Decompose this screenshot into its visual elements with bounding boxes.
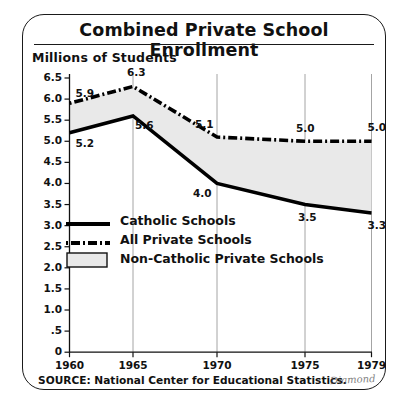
x-tick-label: 1979	[349, 359, 395, 371]
y-tick-label: 6.5	[36, 71, 62, 83]
data-label-catholic: 5.2	[76, 137, 95, 149]
non-catholic-area	[70, 86, 372, 213]
data-label-all-private: 5.9	[76, 87, 95, 99]
data-label-catholic: 4.0	[193, 187, 212, 199]
chart-figure: Combined Private School Enrollment Milli…	[0, 0, 404, 412]
y-tick-label: .5	[36, 324, 62, 336]
y-tick-label: 2.0	[36, 261, 62, 273]
dash-dot-line-swatch	[66, 235, 110, 247]
y-tick-label: 0	[36, 345, 62, 357]
data-label-catholic: 3.5	[298, 211, 317, 223]
data-label-all-private: 5.0	[296, 122, 315, 134]
x-tick-label: 1960	[47, 359, 93, 371]
y-tick-label: 3.5	[36, 198, 62, 210]
legend-label-catholic: Catholic Schools	[120, 213, 236, 228]
data-label-all-private: 6.3	[127, 66, 146, 78]
y-tick-label: 1.5	[36, 282, 62, 294]
y-tick-label: 6.0	[36, 92, 62, 104]
y-tick-label: 1.0	[36, 303, 62, 315]
legend-label-non-catholic: Non-Catholic Private Schools	[120, 251, 324, 266]
x-tick-label: 1965	[110, 359, 156, 371]
gray-box-swatch	[66, 254, 110, 266]
y-tick-label: 5.5	[36, 113, 62, 125]
y-tick-label: 4.5	[36, 155, 62, 167]
x-tick-label: 1970	[194, 359, 240, 371]
legend-label-all-private: All Private Schools	[120, 232, 252, 247]
solid-line-swatch	[66, 216, 110, 228]
data-label-all-private: 5.0	[368, 121, 387, 133]
y-tick-label: 2.5	[36, 240, 62, 252]
y-tick-label: 5.0	[36, 134, 62, 146]
x-axis-ticks	[70, 352, 372, 357]
y-tick-label: 3.0	[36, 219, 62, 231]
data-label-all-private: 5.1	[195, 118, 214, 130]
source-note: SOURCE: National Center for Educational …	[38, 374, 347, 386]
data-label-catholic: 5.6	[135, 119, 154, 131]
x-tick-label: 1975	[282, 359, 328, 371]
data-label-catholic: 3.3	[368, 219, 387, 231]
y-tick-label: 4.0	[36, 176, 62, 188]
